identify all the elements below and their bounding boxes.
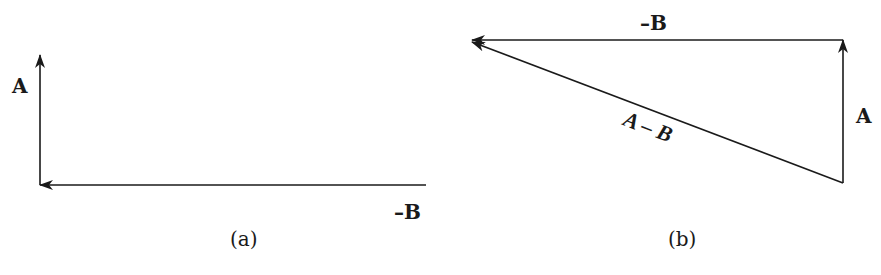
label-minus-b: –B xyxy=(640,11,667,35)
panel-a: A –B (a) xyxy=(11,55,426,251)
panel-b: –B A A – B (b) xyxy=(472,11,872,251)
vector-diagram: A –B (a) –B A A – B (b) xyxy=(0,0,881,275)
vector-a-minus-b-arrow xyxy=(472,42,843,183)
label-a: A xyxy=(11,74,28,98)
caption-a: (a) xyxy=(230,227,258,251)
label-minus-b: –B xyxy=(394,200,421,224)
label-a-minus-b: A – B xyxy=(618,105,676,147)
label-a: A xyxy=(855,104,872,128)
caption-b: (b) xyxy=(668,227,696,251)
